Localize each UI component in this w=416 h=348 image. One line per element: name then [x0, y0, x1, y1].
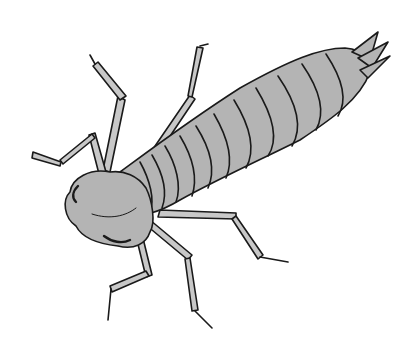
abdomen: [120, 48, 370, 215]
illustration-canvas: Aquatic insect nymph line illustration: [0, 0, 416, 348]
nymph-illustration: [0, 0, 416, 348]
head: [65, 171, 153, 247]
